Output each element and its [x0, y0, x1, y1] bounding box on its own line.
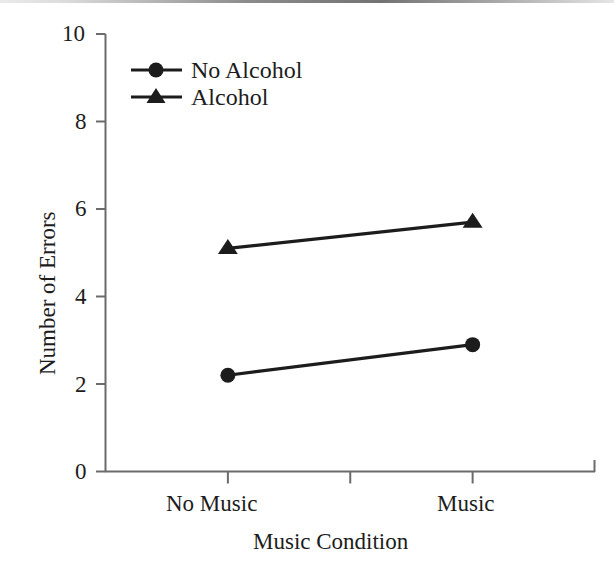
line-chart-plot [0, 0, 614, 577]
y-axis-ticks [96, 34, 106, 472]
series-no-alcohol-line [228, 345, 473, 376]
legend-label-alcohol: Alcohol [191, 85, 268, 109]
series-no-alcohol [220, 337, 480, 383]
y-axis-title: Number of Errors [36, 211, 59, 375]
circle-marker-icon [149, 63, 164, 78]
legend-markers [131, 63, 182, 104]
x-tick-label-no-music: No Music [166, 492, 257, 515]
y-tick-label-6: 6 [75, 197, 87, 220]
data-point-alcohol-music [463, 213, 483, 228]
x-axis-title: Music Condition [253, 530, 408, 553]
x-axis-ticks [228, 472, 473, 484]
x-tick-label-music: Music [437, 492, 495, 515]
legend-label-no-alcohol: No Alcohol [191, 58, 302, 82]
y-tick-label-8: 8 [75, 110, 87, 133]
data-point-no-alcohol-music [465, 337, 480, 352]
y-tick-label-4: 4 [75, 285, 87, 308]
y-tick-label-2: 2 [75, 373, 87, 396]
series-alcohol-line [228, 222, 473, 248]
y-tick-label-10: 10 [62, 22, 85, 45]
y-tick-label-0: 0 [75, 460, 87, 483]
data-point-no-alcohol-no-music [220, 368, 235, 383]
figure-canvas: 10 8 6 4 2 0 No Music Music Music Condit… [0, 0, 614, 577]
series-alcohol [218, 213, 483, 254]
